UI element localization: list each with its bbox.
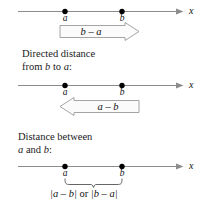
axis-label-x-1: x [189,5,193,16]
number-line-2 [0,76,205,96]
caption-distance-line2: a and b: [18,144,52,157]
caption-mid: to [50,61,63,72]
distance-expression: |a – b| or |b – a| [50,188,118,199]
axis-label-x-3: x [189,160,193,171]
caption-suffix2: : [49,144,52,155]
number-line-3 [0,157,205,177]
caption-directed-b-to-a-line1: Directed distance [22,48,95,61]
caption-mid2: and [23,144,43,155]
number-line-1 [0,2,205,22]
caption-distance-line1: Distance between [18,131,92,144]
panel-distance: Distance between a and b: a b x |a – b| … [0,131,205,208]
panel-directed-b-to-a: Directed distance from b to a: a b x a –… [0,48,205,128]
expr-abs-b-minus-a: |b – a| [91,188,118,199]
point-label-b-3: b [115,168,129,178]
expr-abs-a-minus-b: |a – b| [50,188,77,199]
banner-expression-1: b – a [60,26,122,37]
caption-suffix: : [69,61,72,72]
axis-label-x-2: x [189,79,193,90]
panel-directed-a-to-b: a b x b – a [0,0,205,45]
caption-prefix: from [22,61,45,72]
caption-directed-b-to-a-line2: from b to a: [22,61,72,74]
banner-expression-2: a – b [77,101,139,112]
point-label-a-3: a [58,168,72,178]
expr-conjunction: or [77,188,91,199]
number-line-distance-figure: a b x b – a Directed distance from b to … [0,0,205,208]
